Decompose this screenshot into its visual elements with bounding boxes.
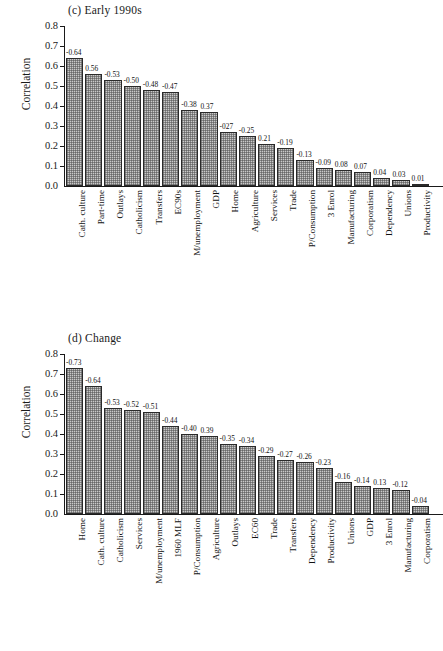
bar-value-label: -0.48	[143, 81, 158, 88]
bar-slot: -0.27Transfers	[276, 354, 295, 514]
bar-value-label: 0.07	[354, 163, 367, 170]
y-tick-label: 0.0	[45, 181, 58, 192]
bar-slot: 0.39Agriculture	[199, 354, 218, 514]
bar-slot: 0.01Productivity	[411, 26, 430, 186]
bar[interactable]	[104, 408, 121, 514]
bar-slot: 0.04Dependency	[372, 26, 391, 186]
chart-panel-c: (c) Early 1990s Correlation 0.00.10.20.3…	[0, 0, 433, 320]
bar-slot: 0.133 Enrol	[372, 354, 391, 514]
bar-slot: -0.441960 MLF	[161, 354, 180, 514]
x-axis-category-label: EC90s	[174, 190, 183, 215]
bar[interactable]	[354, 172, 371, 186]
bar[interactable]	[66, 368, 83, 514]
bar-slot: -0.35Outlays	[219, 354, 238, 514]
bar[interactable]	[143, 90, 160, 186]
y-tick-label: 0.5	[45, 81, 58, 92]
bar[interactable]	[412, 184, 429, 186]
x-axis-category-label: Cath. culture	[78, 190, 87, 237]
bar[interactable]	[85, 74, 102, 186]
panel-c-title: (c) Early 1990s	[68, 4, 142, 16]
x-axis-category-label: Agriculture	[212, 518, 221, 560]
bar[interactable]	[392, 180, 409, 186]
bar[interactable]	[181, 434, 198, 514]
bar[interactable]	[335, 482, 352, 514]
bar[interactable]	[412, 506, 429, 514]
bar[interactable]	[220, 444, 237, 514]
bar[interactable]	[277, 460, 294, 514]
bar-slot: -0.16Unions	[334, 354, 353, 514]
x-axis-category-label: Outlays	[231, 518, 240, 547]
bar-slot: -0.14GDP	[353, 354, 372, 514]
x-axis-category-label: M/unemployment	[193, 190, 202, 256]
bar-slot: -0.34EC60	[238, 354, 257, 514]
bar[interactable]	[392, 490, 409, 514]
bar-value-label: -0.13	[296, 151, 311, 158]
bar[interactable]	[258, 456, 275, 514]
bar-value-label: -0.34	[239, 437, 254, 444]
panel-d-plot-area: Correlation 0.00.10.20.30.40.50.60.70.8 …	[0, 354, 433, 644]
x-axis-category-label: Manufacturing	[404, 518, 413, 573]
bar[interactable]	[124, 410, 141, 514]
bar-slot: 0.56Part-time	[84, 26, 103, 186]
bar-slot: -0.13P/Consumption	[295, 26, 314, 186]
bar[interactable]	[373, 178, 390, 186]
bar-slot: -0.04Corporatism	[411, 354, 430, 514]
bar[interactable]	[162, 92, 179, 186]
bar[interactable]	[200, 436, 217, 514]
bar[interactable]	[85, 386, 102, 514]
x-axis-category-label: Dependency	[308, 518, 317, 564]
bar-slot: 0.08Manufacturing	[334, 26, 353, 186]
bar-value-label: 0.04	[373, 169, 386, 176]
x-axis-category-label: EC60	[251, 518, 260, 539]
bar-value-label: 0.03	[392, 171, 405, 178]
x-axis-category-label: Unions	[347, 518, 356, 545]
bar[interactable]	[162, 426, 179, 514]
bar[interactable]	[335, 170, 352, 186]
bar[interactable]	[373, 488, 390, 514]
bar[interactable]	[277, 148, 294, 186]
bar[interactable]	[143, 412, 160, 514]
bar[interactable]	[239, 136, 256, 186]
x-axis-category-label: 1960 MLF	[174, 518, 183, 558]
bar-slot: -0.26Dependency	[295, 354, 314, 514]
x-axis-category-label: Corporatism	[423, 518, 432, 564]
bar-slot: -0.093 Enrol	[315, 26, 334, 186]
x-axis-category-label: Catholicism	[116, 518, 125, 562]
x-axis-category-label: Trade	[270, 518, 279, 539]
bar[interactable]	[220, 132, 237, 186]
x-axis-category-label: Catholicism	[135, 190, 144, 234]
x-axis-category-label: Manufacturing	[347, 190, 356, 245]
bar[interactable]	[239, 446, 256, 514]
y-tick-label: 0.3	[45, 121, 58, 132]
bar-value-label: 0.08	[335, 161, 348, 168]
bar-value-label: -0.64	[66, 49, 81, 56]
bar[interactable]	[354, 486, 371, 514]
bar[interactable]	[200, 112, 217, 186]
x-axis-category-label: GDP	[212, 190, 221, 208]
y-tick-label: 0.8	[45, 21, 58, 32]
x-axis-category-label: Services	[270, 190, 279, 221]
bar[interactable]	[316, 168, 333, 186]
bar-value-label: -0.19	[277, 139, 292, 146]
panel-d-title: (d) Change	[68, 332, 121, 344]
bar-value-label: -0.73	[66, 359, 81, 366]
bar[interactable]	[258, 144, 275, 186]
bar[interactable]	[66, 58, 83, 186]
bar[interactable]	[181, 110, 198, 186]
bar[interactable]	[124, 86, 141, 186]
x-axis-category-label: Unions	[404, 190, 413, 217]
y-tick-label: 0.2	[45, 469, 58, 480]
bar[interactable]	[296, 160, 313, 186]
bar-slot: -0.12Manufacturing	[391, 354, 410, 514]
bar-slot: -0.64Cath. culture	[65, 26, 84, 186]
bar-slot: -027Home	[219, 26, 238, 186]
bar-slot: 0.07Corporatism	[353, 26, 372, 186]
bar-slot: -0.50Catholicism	[123, 26, 142, 186]
bar[interactable]	[104, 80, 121, 186]
y-tick-label: 0.8	[45, 349, 58, 360]
panel-d-bars: -0.73Home-0.64Cath. culture-0.53Catholic…	[65, 354, 430, 514]
bar[interactable]	[296, 462, 313, 514]
bar-value-label: -0.44	[162, 417, 177, 424]
bar[interactable]	[316, 468, 333, 514]
